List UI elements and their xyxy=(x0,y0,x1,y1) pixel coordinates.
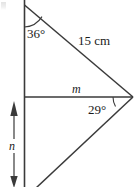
angle-label-top: 36° xyxy=(27,27,45,40)
geometry-diagram: 36° 15 cm m 29° n xyxy=(0,0,139,187)
lower-diagonal-segment xyxy=(36,97,133,187)
diagram-canvas xyxy=(0,0,139,187)
angle-label-right: 29° xyxy=(88,103,106,116)
arrow-up-icon xyxy=(10,101,17,116)
angle-arc-29 xyxy=(113,97,116,107)
side-length-label: 15 cm xyxy=(78,34,110,47)
segment-label-m: m xyxy=(72,83,81,95)
segment-label-n: n xyxy=(8,139,16,153)
arrow-down-icon xyxy=(10,176,17,187)
